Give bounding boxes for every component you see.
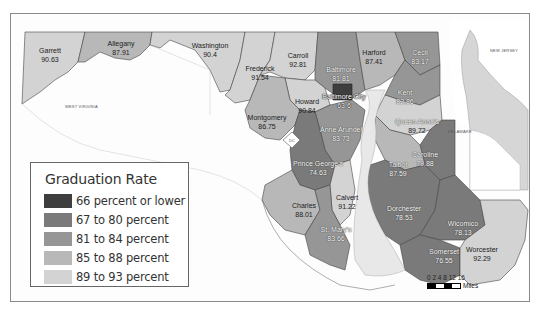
county-value: 91.22: [336, 202, 358, 211]
county-value: 83.66: [321, 234, 352, 243]
county-name: Anne Arundel: [320, 125, 362, 134]
county-value: 90.63: [39, 55, 61, 64]
county-value: 81.81: [326, 74, 356, 83]
county-value: 83.73: [320, 134, 362, 143]
legend-item: 66 percent or lower: [44, 193, 185, 208]
county-name: Calvert: [336, 193, 358, 202]
county-value: 63.6: [322, 101, 366, 110]
legend-label: 89 to 93 percent: [76, 270, 169, 284]
county-value: 92.29: [466, 254, 498, 263]
legend-item: 81 to 84 percent: [44, 231, 169, 246]
legend-swatch: [44, 232, 72, 246]
legend-item: 89 to 93 percent: [44, 269, 169, 284]
county-label-caroline: Caroline79.88: [412, 150, 438, 168]
county-label-worcester: Worcester92.29: [466, 245, 498, 263]
county-name: St. Mary's: [321, 225, 352, 234]
county-label-wicomico: Wicomico78.13: [448, 219, 478, 237]
county-value: 78.53: [387, 213, 421, 222]
county-value: 86.75: [248, 122, 287, 131]
legend-label: 67 to 80 percent: [76, 213, 169, 227]
legend-item: 85 to 88 percent: [44, 250, 169, 265]
county-value: 87.59: [389, 169, 408, 178]
county-label-dorchester: Dorchester78.53: [387, 204, 421, 222]
county-label-st-marys: St. Mary's83.66: [321, 225, 352, 243]
county-value: 91.54: [245, 73, 274, 82]
county-name: Baltimore: [326, 65, 356, 74]
legend-swatch: [44, 270, 72, 284]
county-name: Queen Anne's: [395, 117, 439, 126]
legend-title: Graduation Rate: [45, 171, 157, 187]
county-name: Cecil: [411, 48, 429, 57]
legend-swatch: [44, 194, 72, 208]
state-label-delaware: DELAWARE: [448, 129, 472, 134]
county-name: Dorchester: [387, 204, 421, 213]
county-name: Wicomico: [448, 219, 478, 228]
county-name: Prince George's: [293, 159, 343, 168]
county-name: Allegany: [108, 39, 135, 48]
county-value: 89.72: [395, 126, 439, 135]
county-value: 76.55: [429, 256, 459, 265]
scale-unit: Miles: [463, 282, 478, 289]
county-value: 87.41: [362, 57, 385, 66]
county-label-baltimore: Baltimore81.81: [326, 65, 356, 83]
legend-item: 67 to 80 percent: [44, 212, 169, 227]
county-name: Caroline: [412, 150, 438, 159]
county-label-frederick: Frederick91.54: [245, 64, 274, 82]
county-value: 90.4: [192, 50, 229, 59]
county-name: Baltimore City: [322, 92, 366, 101]
county-label-washington: Washington90.4: [192, 41, 229, 59]
county-name: Howard: [295, 97, 319, 106]
county-value: 82.86: [396, 97, 414, 106]
county-name: Washington: [192, 41, 229, 50]
county-name: Montgomery: [248, 113, 287, 122]
county-label-calvert: Calvert91.22: [336, 193, 358, 211]
county-name: Carroll: [288, 51, 309, 60]
county-name: Frederick: [245, 64, 274, 73]
county-name: Somerset: [429, 247, 459, 256]
county-value: 90.84: [295, 106, 319, 115]
county-label-baltimore-city: Baltimore City63.6: [322, 92, 366, 110]
county-label-anne-arundel: Anne Arundel83.73: [320, 125, 362, 143]
county-label-kent: Kent82.86: [396, 88, 414, 106]
county-name: Kent: [396, 88, 414, 97]
county-value: 87.91: [108, 48, 135, 57]
county-value: 83.17: [411, 57, 429, 66]
county-label-talbot: Talbot87.59: [389, 160, 408, 178]
county-label-harford: Harford87.41: [362, 48, 385, 66]
county-label-charles: Charles88.01: [292, 201, 316, 219]
state-label-new-jersey: NEW JERSEY: [490, 48, 518, 53]
county-value: 74.63: [293, 168, 343, 177]
county-label-prince-georges: Prince George's74.63: [293, 159, 343, 177]
county-garrett: [22, 32, 85, 104]
county-name: Charles: [292, 201, 316, 210]
legend-label: 66 percent or lower: [76, 194, 185, 208]
county-label-queen-annes: Queen Anne's89.72: [395, 117, 439, 135]
county-name: Harford: [362, 48, 385, 57]
county-value: 79.88: [412, 159, 438, 168]
county-value: 88.01: [292, 210, 316, 219]
county-value: 92.81: [288, 60, 309, 69]
legend-label: 81 to 84 percent: [76, 232, 169, 246]
county-name: Garrett: [39, 46, 61, 55]
scale-graphic: [427, 283, 461, 289]
legend-swatch: [44, 213, 72, 227]
county-label-montgomery: Montgomery86.75: [248, 113, 287, 131]
county-label-carroll: Carroll92.81: [288, 51, 309, 69]
county-label-garrett: Garrett90.63: [39, 46, 61, 64]
county-label-somerset: Somerset76.55: [429, 247, 459, 265]
legend-label: 85 to 88 percent: [76, 251, 169, 265]
county-label-cecil: Cecil83.17: [411, 48, 429, 66]
state-label-west-virginia: WEST VIRGINIA: [65, 104, 98, 109]
county-label-allegany: Allegany87.91: [108, 39, 135, 57]
legend-swatch: [44, 251, 72, 265]
scale-bar: 0 2 4 8 12 16 Miles: [427, 274, 478, 289]
county-label-howard: Howard90.84: [295, 97, 319, 115]
county-value: 78.13: [448, 228, 478, 237]
scale-ticks: 0 2 4 8 12 16: [427, 274, 478, 281]
county-name: Talbot: [389, 160, 408, 169]
legend: Graduation Rate 66 percent or lower 67 t…: [30, 162, 189, 287]
state-label-dc: DC: [289, 138, 295, 143]
county-name: Worcester: [466, 245, 498, 254]
